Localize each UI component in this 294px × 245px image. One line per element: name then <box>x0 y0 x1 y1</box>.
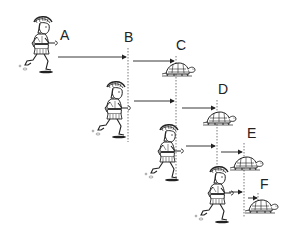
tortoise-icon <box>245 200 278 213</box>
label-a: A <box>60 27 70 43</box>
runner-figure-icon <box>92 82 130 139</box>
tortoise-icon <box>230 157 263 170</box>
zeno-paradox-diagram: A B C D E F <box>0 0 294 245</box>
label-b: B <box>124 29 133 45</box>
runner-figure-icon <box>195 167 233 224</box>
label-d: D <box>218 81 228 97</box>
runner-figure-icon <box>19 17 57 74</box>
label-e: E <box>247 125 256 141</box>
tortoise-icon <box>203 112 236 125</box>
stage-4: F <box>195 167 278 224</box>
label-c: C <box>176 37 186 53</box>
tortoise-icon <box>162 63 195 76</box>
label-f: F <box>260 176 269 192</box>
runner-figure-icon <box>145 125 183 182</box>
stage-3: E <box>145 125 263 218</box>
